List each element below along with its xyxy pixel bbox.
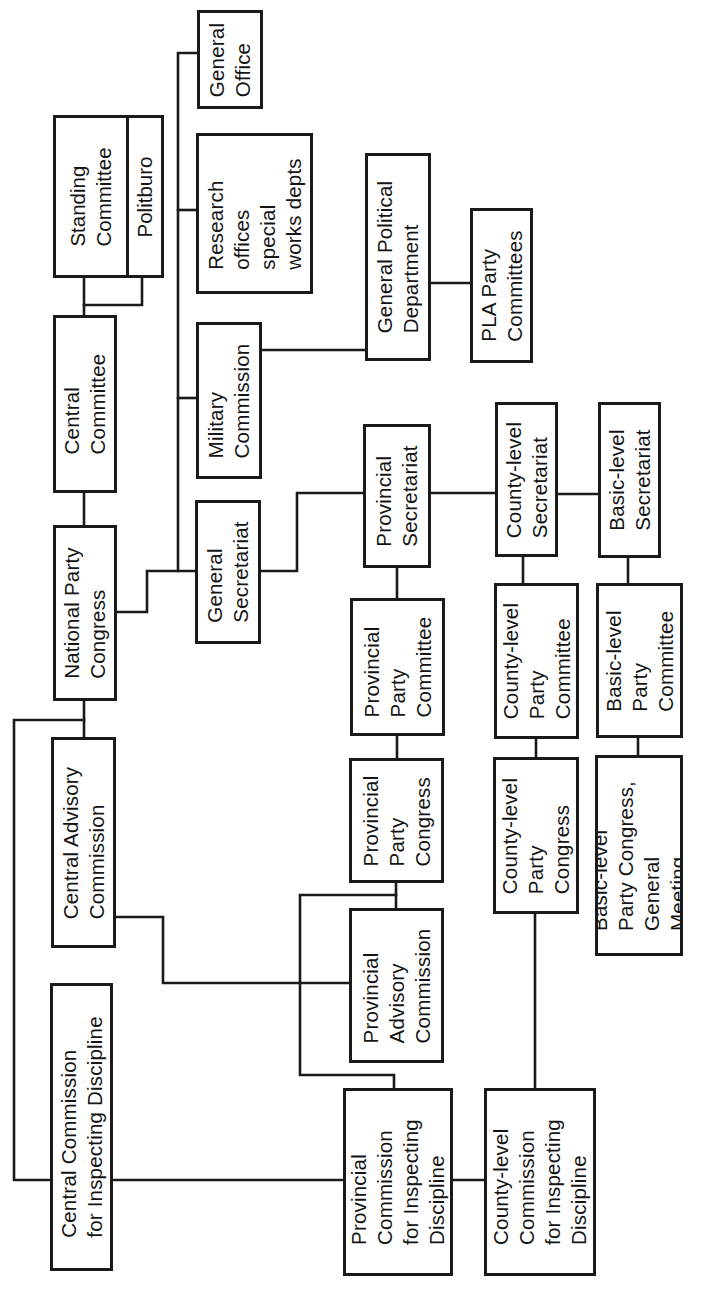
provincial-secretariat-node: Provincial Secretariat xyxy=(363,424,431,568)
county-party-congress-label: County-level Party Congress xyxy=(497,777,575,893)
standing-committee-label: Standing Committee xyxy=(65,147,117,246)
provincial-party-congress-node: Provincial Party Congress xyxy=(349,758,444,883)
provincial-cid-node: Provincial Commission for Inspecting Dis… xyxy=(343,1088,453,1276)
party-organization-chart: Standing Committee Politburo Central Com… xyxy=(0,0,724,1296)
research-offices-label: Research offices special works depts xyxy=(203,158,307,270)
general-political-department-node: General Political Department xyxy=(365,153,431,361)
central-cid-node: Central Commission for Inspecting Discip… xyxy=(50,983,113,1271)
military-commission-node: Military Commission xyxy=(196,322,262,479)
standing-committee-node: Standing Committee xyxy=(56,118,126,275)
county-secretariat-node: County-level Secretariat xyxy=(495,402,558,557)
general-office-label: General Office xyxy=(204,22,256,96)
county-cid-label: County-level Commission for Inspecting D… xyxy=(488,1119,592,1245)
research-offices-node: Research offices special works depts xyxy=(196,133,313,294)
central-advisory-commission-node: Central Advisory Commission xyxy=(51,737,116,948)
pla-party-committees-label: PLA Party Committees xyxy=(476,230,528,341)
provincial-party-congress-label: Provincial Party Congress xyxy=(358,775,436,866)
basic-secretariat-label: Basic-level Secretariat xyxy=(604,429,656,530)
provincial-advisory-commission-node: Provincial Advisory Commission xyxy=(349,908,444,1063)
standing-committee-politburo-box: Standing Committee Politburo xyxy=(53,115,164,278)
provincial-secretariat-label: Provincial Secretariat xyxy=(371,445,423,546)
central-cid-label: Central Commission for Inspecting Discip… xyxy=(56,1016,108,1238)
military-commission-label: Military Commission xyxy=(203,343,255,458)
county-secretariat-label: County-level Secretariat xyxy=(501,421,553,537)
general-secretariat-node: General Secretariat xyxy=(195,500,261,644)
basic-party-committee-label: Basic-level Party Committee xyxy=(601,610,679,711)
county-party-committee-label: County-level Party Committee xyxy=(498,603,576,719)
general-secretariat-label: General Secretariat xyxy=(202,521,254,622)
central-advisory-commission-label: Central Advisory Commission xyxy=(58,766,110,918)
politburo-node: Politburo xyxy=(129,118,161,275)
county-cid-node: County-level Commission for Inspecting D… xyxy=(484,1088,596,1276)
central-committee-label: Central Committee xyxy=(59,354,111,455)
county-party-congress-node: County-level Party Congress xyxy=(493,757,579,914)
basic-party-congress-node: Basic-level Party Congress, General Meet… xyxy=(595,755,683,956)
national-party-congress-label: National Party Congress xyxy=(59,547,111,679)
general-political-department-label: General Political Department xyxy=(372,181,424,334)
pla-party-committees-node: PLA Party Committees xyxy=(470,208,533,363)
provincial-party-committee-label: Provincial Party Committee xyxy=(359,617,437,718)
central-committee-node: Central Committee xyxy=(53,315,117,493)
politburo-label: Politburo xyxy=(132,156,158,237)
basic-party-congress-label: Basic-level Party Congress, General Meet… xyxy=(595,781,683,931)
general-office-node: General Office xyxy=(197,10,263,109)
county-party-committee-node: County-level Party Committee xyxy=(494,583,579,739)
provincial-advisory-commission-label: Provincial Advisory Commission xyxy=(358,928,436,1043)
basic-secretariat-node: Basic-level Secretariat xyxy=(598,402,661,558)
provincial-cid-label: Provincial Commission for Inspecting Dis… xyxy=(346,1119,450,1245)
provincial-party-committee-node: Provincial Party Committee xyxy=(350,598,445,736)
national-party-congress-node: National Party Congress xyxy=(53,525,117,701)
basic-party-committee-node: Basic-level Party Committee xyxy=(596,583,683,738)
